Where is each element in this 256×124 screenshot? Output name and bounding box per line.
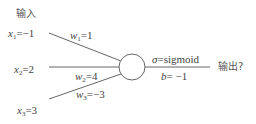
- bias-label: b= −1: [161, 70, 187, 82]
- input-x3: x3=3: [17, 104, 37, 120]
- input-header: 输入: [16, 8, 36, 20]
- weight-w2: w2=4: [75, 70, 98, 86]
- output-label: 输出?: [218, 61, 243, 73]
- input-x2: x2=2: [14, 63, 34, 79]
- input-x1: x1=−1: [8, 27, 34, 43]
- activation-label: σ=sigmoid: [152, 53, 199, 65]
- weight-w3: w3=−3: [76, 88, 105, 104]
- neuron-node: [119, 54, 145, 80]
- weight-w1: w1=1: [70, 29, 93, 45]
